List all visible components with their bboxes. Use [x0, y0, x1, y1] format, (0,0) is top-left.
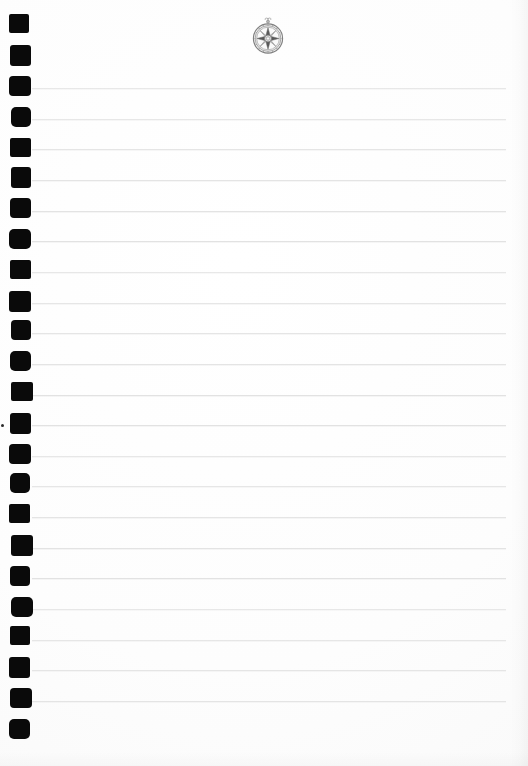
spiral-binding-layer — [0, 0, 46, 766]
binding-hole — [9, 444, 31, 464]
binding-hole — [9, 229, 31, 249]
rule-line — [32, 333, 506, 334]
rule-line — [32, 609, 506, 610]
rule-line — [32, 640, 506, 641]
binding-hole — [10, 566, 31, 586]
binding-hole — [11, 167, 31, 188]
binding-hole — [10, 138, 32, 157]
binding-hole — [10, 198, 31, 218]
compass-rose-icon — [248, 15, 288, 59]
binding-hole — [11, 320, 31, 340]
rule-line — [32, 548, 506, 549]
rule-line — [32, 701, 506, 702]
rule-line — [32, 303, 506, 304]
rule-line — [32, 364, 506, 365]
scan-speck — [1, 424, 4, 427]
rule-line — [32, 88, 506, 89]
binding-hole — [11, 107, 32, 127]
binding-hole — [10, 473, 30, 493]
binding-hole — [10, 688, 32, 708]
rule-line — [32, 456, 506, 457]
binding-hole — [10, 260, 31, 279]
rule-line — [32, 425, 506, 426]
binding-hole — [10, 45, 31, 66]
rule-line — [32, 395, 506, 396]
notebook-page — [0, 0, 528, 766]
rule-line — [32, 670, 506, 671]
binding-hole — [9, 657, 30, 678]
ruled-lines-layer — [0, 0, 528, 766]
binding-hole — [9, 504, 30, 523]
binding-hole — [10, 413, 31, 434]
rule-line — [32, 578, 506, 579]
rule-line — [32, 119, 506, 120]
binding-hole — [9, 14, 29, 33]
rule-line — [32, 486, 506, 487]
binding-hole — [11, 382, 33, 401]
rule-line — [32, 149, 506, 150]
rule-line — [32, 517, 506, 518]
binding-hole — [10, 351, 31, 371]
binding-hole — [11, 535, 33, 556]
binding-hole — [11, 597, 33, 617]
rule-line — [32, 211, 506, 212]
rule-line — [32, 272, 506, 273]
binding-hole — [9, 76, 31, 96]
rule-line — [32, 180, 506, 181]
rule-line — [32, 241, 506, 242]
binding-hole — [9, 291, 31, 312]
binding-hole — [9, 719, 30, 739]
binding-hole — [10, 626, 30, 645]
